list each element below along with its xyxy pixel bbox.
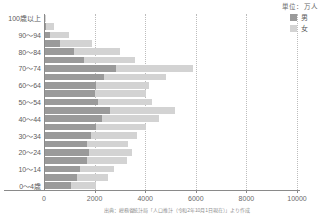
bar-segment-female [89,149,132,156]
y-axis-tick-label: 60～64 [0,80,41,90]
bar-row [44,124,146,131]
bar-segment-female [60,40,92,47]
bar-row [44,141,128,148]
bar-segment-male [44,107,110,114]
bar-segment-male [44,40,60,47]
bar-row [44,90,146,97]
bar-row [44,65,193,72]
bar-row [44,99,152,106]
bar-segment-female [46,23,54,30]
bar-segment-male [44,166,80,173]
bar-segment-female [71,182,96,189]
bar-row [44,107,175,114]
bar-segment-female [80,166,114,173]
bar-segment-female [110,107,175,114]
legend-label-male: 男 [301,14,308,21]
y-axis-tick-label: 90～94 [0,30,41,40]
plot-area [44,14,297,190]
y-axis-line [44,14,45,190]
bar-segment-male [44,157,87,164]
bar-row [44,166,114,173]
x-axis-tick-label: 10000 [287,195,306,202]
bar-segment-female [77,174,108,181]
bar-row [44,32,69,39]
bar-row [44,82,149,89]
bar-segment-male [44,141,87,148]
bar-row [44,157,127,164]
bar-segment-female [98,99,152,106]
bar-segment-male [44,99,98,106]
gridline [297,14,298,190]
bar-row [44,57,135,64]
y-axis-tick-label: 30～34 [0,131,41,141]
unit-label: 単位：万人 [282,1,318,11]
x-axis-tick-label: 2000 [87,195,103,202]
bar-row [44,23,54,30]
bar-row [44,40,92,47]
bar-segment-female [91,132,136,139]
gridline [246,14,247,190]
y-axis-tick-label: 50～54 [0,97,41,107]
bar-segment-female [50,32,68,39]
bar-row [44,149,132,156]
bar-segment-female [96,124,146,131]
legend-label-female: 女 [301,25,308,32]
y-axis-tick-label: 20～24 [0,147,41,157]
x-axis-tick-label: 6000 [188,195,204,202]
bar-segment-male [44,82,96,89]
x-axis-tick-label: 8000 [239,195,255,202]
x-axis-tick-label: 4000 [137,195,153,202]
bar-row [44,174,108,181]
bar-segment-female [87,157,127,164]
bar-segment-female [84,57,135,64]
y-axis-tick-label: 10～14 [0,164,41,174]
bar-segment-female [116,65,193,72]
bar-segment-male [44,174,77,181]
bar-segment-male [44,74,104,81]
y-axis-tick-label: 0～4歳 [0,181,41,191]
bar-segment-male [44,182,71,189]
bar-segment-female [104,74,166,81]
bar-segment-female [87,141,128,148]
bar-segment-male [44,57,84,64]
bar-row [44,182,96,189]
gridline [196,14,197,190]
x-axis-line [4,190,300,191]
x-axis-tick [145,190,146,193]
bar-segment-male [44,65,116,72]
bar-row [44,132,137,139]
source-note: 出典：総務省統計局「人口推計（令和2年10月1日現在）」より作成 [104,206,250,213]
bar-row [44,115,159,122]
x-axis-tick [196,190,197,193]
x-axis-tick-label: 0 [42,195,46,202]
bar-segment-male [44,132,91,139]
bar-segment-male [44,115,102,122]
y-axis-tick-label: 70～74 [0,63,41,73]
bar-segment-female [74,48,120,55]
bar-segment-male [44,48,74,55]
bar-row [44,74,166,81]
y-axis-tick-label: 80～84 [0,47,41,57]
y-axis-tick-label: 40～44 [0,114,41,124]
population-pyramid-chart: 単位：万人 男 女 100歳以上90～9480～8470～7460～6450～5… [0,0,322,216]
x-axis-tick [246,190,247,193]
x-axis-tick [297,190,298,193]
bar-segment-female [96,82,149,89]
bar-segment-male [44,124,96,131]
bar-row [44,48,120,55]
x-axis-tick [95,190,96,193]
bar-segment-male [44,149,89,156]
y-axis-tick-label: 100歳以上 [0,13,41,23]
bar-segment-male [44,90,95,97]
bar-segment-female [95,90,147,97]
bar-segment-female [102,115,159,122]
